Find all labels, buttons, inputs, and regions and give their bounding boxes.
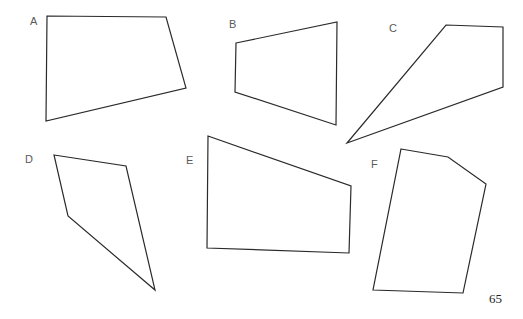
shape-e — [207, 136, 351, 253]
shape-label-a: A — [30, 16, 37, 27]
shape-label-c: C — [389, 23, 397, 34]
quadrilateral-figure-canvas — [0, 0, 523, 319]
shape-d — [54, 155, 155, 290]
shape-a — [46, 16, 186, 121]
shape-f — [373, 149, 486, 293]
shape-label-e: E — [186, 155, 193, 166]
shape-label-f: F — [371, 159, 378, 170]
shape-label-d: D — [25, 154, 33, 165]
shape-c — [347, 25, 503, 143]
page-number: 65 — [489, 292, 502, 305]
shape-label-b: B — [229, 19, 236, 30]
shape-b — [235, 22, 337, 125]
